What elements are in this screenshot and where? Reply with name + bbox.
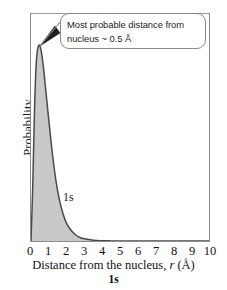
callout-text: Most probable distance from nucleus ~ 0.… xyxy=(67,18,203,45)
x-tick-label: 1 xyxy=(38,244,58,259)
x-axis-label-suffix: (Å) xyxy=(174,258,194,272)
x-tick-label: 8 xyxy=(164,244,184,259)
x-tick-label: 9 xyxy=(182,244,202,259)
x-tick-label: 7 xyxy=(146,244,166,259)
x-tick-label: 3 xyxy=(74,244,94,259)
x-tick-label: 4 xyxy=(92,244,112,259)
callout-line-2: nucleus ~ 0.5 Å xyxy=(67,33,131,44)
figure-caption: 1s xyxy=(0,273,227,285)
x-tick-label: 5 xyxy=(110,244,130,259)
x-tick-label: 2 xyxy=(56,244,76,259)
x-tick-label: 6 xyxy=(128,244,148,259)
x-tick-label: 0 xyxy=(20,244,40,259)
callout-line-1: Most probable distance from xyxy=(67,19,184,30)
x-axis-label: Distance from the nucleus, r (Å) xyxy=(0,258,227,273)
radial-probability-figure: Probability 1s Most probable distance fr… xyxy=(0,0,227,290)
orbital-label-1s: 1s xyxy=(63,190,74,205)
x-tick-label: 10 xyxy=(200,244,220,259)
x-axis-label-prefix: Distance from the nucleus, xyxy=(32,258,169,272)
callout-bubble: Most probable distance from nucleus ~ 0.… xyxy=(60,13,206,49)
x-axis-ticks: 012345678910 xyxy=(30,244,210,259)
